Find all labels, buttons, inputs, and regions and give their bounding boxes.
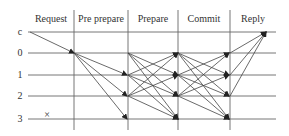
phase-label-commit: Commit	[188, 13, 221, 24]
row-label-2: 2	[18, 90, 23, 101]
phase-label-pre-prepare: Pre prepare	[78, 13, 124, 24]
phase-label-prepare: Prepare	[138, 13, 169, 24]
phase-label-reply: Reply	[241, 13, 265, 24]
phase-dividers	[74, 10, 230, 130]
message-arrows	[30, 32, 266, 119]
faulty-marker-icon: ×	[44, 109, 50, 120]
row-label-3: 3	[18, 113, 23, 124]
row-label-c: c	[18, 26, 23, 37]
phase-label-request: Request	[35, 13, 67, 24]
pbft-diagram: Request Pre prepare Prepare Commit Reply…	[0, 0, 289, 136]
diagram-canvas: Request Pre prepare Prepare Commit Reply…	[0, 0, 289, 136]
row-label-0: 0	[18, 47, 23, 58]
row-label-1: 1	[18, 69, 23, 80]
